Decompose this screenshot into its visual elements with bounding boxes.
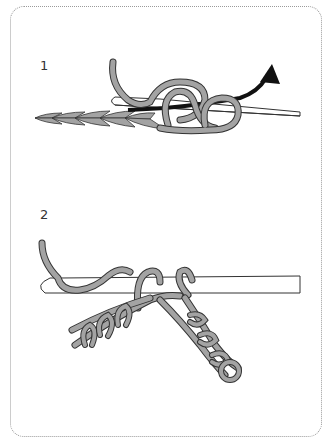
step-1-diagram (35, 62, 300, 131)
crochet-illustration (0, 0, 328, 443)
step-1-chain (35, 111, 165, 129)
arrow-icon (260, 64, 280, 84)
step-2-chain-right (160, 298, 239, 380)
step-2-diagram (41, 243, 300, 380)
